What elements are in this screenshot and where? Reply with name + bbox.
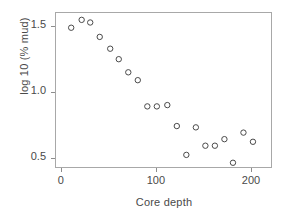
x-tick-mark (251, 168, 252, 172)
x-tick-mark (156, 168, 157, 172)
x-tick-label: 100 (136, 174, 176, 186)
x-tick-label: 0 (41, 174, 81, 186)
x-tick-mark (61, 168, 62, 172)
scatter-plot-figure: 0.51.01.5 0100200 log 10 (% mud) Core de… (0, 0, 292, 218)
y-axis-title: log 10 (% mud) (18, 0, 30, 116)
x-tick-label: 200 (231, 174, 271, 186)
x-axis-title: Core depth (55, 196, 273, 208)
x-axis: 0100200 (0, 0, 292, 218)
